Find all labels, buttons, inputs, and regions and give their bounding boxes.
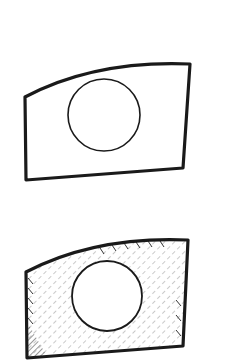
- hole-circle: [68, 79, 140, 151]
- diagram-canvas: [0, 0, 230, 361]
- hatched-plate-figure: [26, 240, 188, 358]
- hole-circle: [72, 261, 142, 331]
- plain-plate-figure: [25, 64, 190, 180]
